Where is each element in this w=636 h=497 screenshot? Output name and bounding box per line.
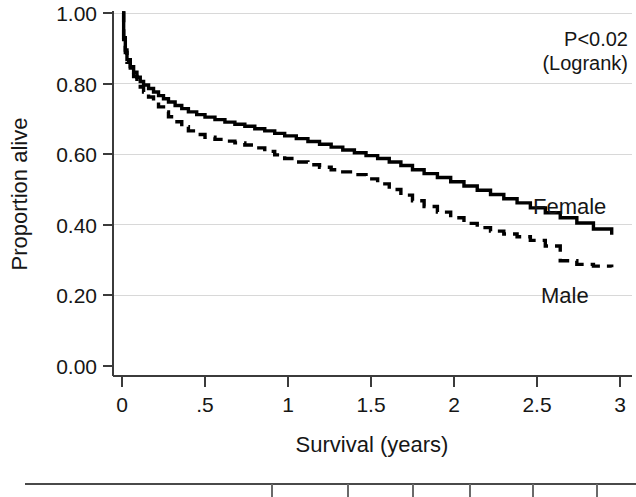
x-tick-label-0: 0 (116, 393, 128, 416)
y-tick-label-0-60: 0.60 (56, 143, 97, 166)
x-tick-label-2-5: 2.5 (522, 393, 551, 416)
x-axis-title: Survival (years) (296, 432, 449, 457)
y-tick-label-0-00: 0.00 (56, 355, 97, 378)
y-tick-label-1-00: 1.00 (56, 2, 97, 25)
x-tick-label-1-5: 1.5 (356, 393, 385, 416)
series-label-male: Male (541, 283, 589, 308)
series-label-female: Female (533, 194, 606, 219)
pvalue-line2: (Logrank) (542, 52, 628, 74)
y-axis-title: Proportion alive (7, 118, 32, 271)
x-tick-label-1: 1 (282, 393, 294, 416)
y-tick-label-0-40: 0.40 (56, 214, 97, 237)
survival-curve-figure: 1.00 0.80 0.60 0.40 0.20 0.00 0 .5 1 1.5… (0, 0, 636, 497)
pvalue-line1: P<0.02 (564, 28, 628, 50)
x-tick-label-2: 2 (448, 393, 460, 416)
y-tick-label-0-80: 0.80 (56, 73, 97, 96)
y-tick-label-0-20: 0.20 (56, 284, 97, 307)
x-tick-label-0-5: .5 (196, 393, 214, 416)
kaplan-meier-plot: 1.00 0.80 0.60 0.40 0.20 0.00 0 .5 1 1.5… (0, 0, 636, 497)
x-tick-label-3: 3 (614, 393, 626, 416)
